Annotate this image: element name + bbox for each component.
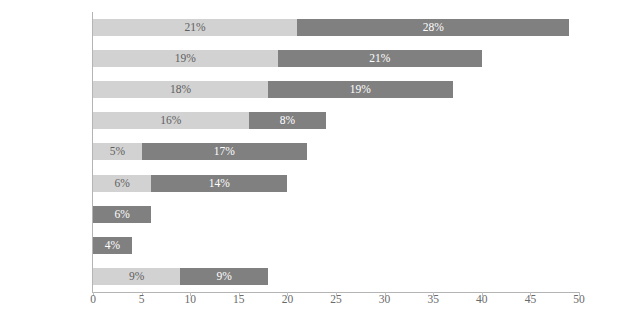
bar-segment-dark: 9% xyxy=(180,268,267,285)
bar-segment-dark: 14% xyxy=(151,175,287,192)
bar-segment-dark: 8% xyxy=(249,112,327,129)
bar-segment-value: 4% xyxy=(93,237,132,254)
bar-row: 咨询服务6%14% xyxy=(93,168,579,199)
bar-segment-value: 21% xyxy=(93,19,297,36)
x-axis-tick-label: 0 xyxy=(73,293,113,305)
bar-segment-light: 19% xyxy=(93,50,278,67)
x-axis-tick-label: 35 xyxy=(413,293,453,305)
bar-segment-dark: 6% xyxy=(93,206,151,223)
bar-segment-light: 5% xyxy=(93,143,142,160)
x-axis-tick-label: 10 xyxy=(170,293,210,305)
bar-track: 16%8% xyxy=(93,112,579,129)
bar-track: 5%17% xyxy=(93,143,579,160)
x-axis-tick-label: 50 xyxy=(559,293,599,305)
bar-row: 政府18%19% xyxy=(93,74,579,105)
plot-area: 大型企业21%28%慈善组织19%21%政府18%19%投资者16%8%风险投资… xyxy=(93,12,579,292)
bar-track: 9%9% xyxy=(93,268,579,285)
bar-track: 21%28% xyxy=(93,19,579,36)
bar-track: 4% xyxy=(93,237,579,254)
bar-segment-value: 21% xyxy=(278,50,482,67)
bar-segment-value: 8% xyxy=(249,112,327,129)
x-axis-tick-label: 20 xyxy=(267,293,307,305)
bar-row: 股本回报6% xyxy=(93,199,579,230)
x-axis-tick-label: 25 xyxy=(316,293,356,305)
bar-row: 大型企业21%28% xyxy=(93,12,579,43)
bar-row: 投资交易费4% xyxy=(93,230,579,261)
x-axis-tick-label: 45 xyxy=(510,293,550,305)
bar-segment-value: 18% xyxy=(93,81,268,98)
bar-segment-value: 16% xyxy=(93,112,249,129)
bar-segment-value: 14% xyxy=(151,175,287,192)
bar-segment-value: 6% xyxy=(93,175,151,192)
bar-row: 其他9%9% xyxy=(93,261,579,292)
bar-row: 投资者16%8% xyxy=(93,105,579,136)
bar-segment-value: 5% xyxy=(93,143,142,160)
bar-segment-value: 19% xyxy=(93,50,278,67)
x-axis-tick-label: 15 xyxy=(219,293,259,305)
bar-segment-dark: 19% xyxy=(268,81,453,98)
bar-track: 18%19% xyxy=(93,81,579,98)
bar-track: 6% xyxy=(93,206,579,223)
bar-segment-value: 6% xyxy=(93,206,151,223)
bar-segment-dark: 21% xyxy=(278,50,482,67)
bar-segment-light: 9% xyxy=(93,268,180,285)
bar-segment-value: 28% xyxy=(297,19,569,36)
bar-segment-value: 17% xyxy=(142,143,307,160)
bar-row: 慈善组织19%21% xyxy=(93,43,579,74)
bar-segment-value: 19% xyxy=(268,81,453,98)
bar-segment-value: 9% xyxy=(180,268,267,285)
bar-segment-value: 9% xyxy=(93,268,180,285)
bar-segment-light: 16% xyxy=(93,112,249,129)
bar-segment-light: 6% xyxy=(93,175,151,192)
bar-track: 19%21% xyxy=(93,50,579,67)
bar-segment-dark: 17% xyxy=(142,143,307,160)
x-axis-tick-label: 30 xyxy=(365,293,405,305)
bar-segment-dark: 28% xyxy=(297,19,569,36)
bar-segment-light: 21% xyxy=(93,19,297,36)
bar-track: 6%14% xyxy=(93,175,579,192)
stacked-bar-chart: 大型企业21%28%慈善组织19%21%政府18%19%投资者16%8%风险投资… xyxy=(0,0,629,332)
x-axis-tick-label: 5 xyxy=(122,293,162,305)
bar-segment-dark: 4% xyxy=(93,237,132,254)
bar-segment-light: 18% xyxy=(93,81,268,98)
bar-row: 风险投资5%17% xyxy=(93,136,579,167)
x-axis-tick-label: 40 xyxy=(462,293,502,305)
